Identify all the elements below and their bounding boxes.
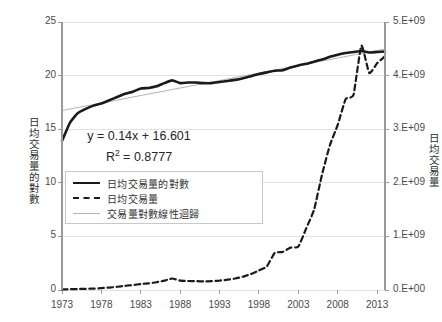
r-squared-value: = 0.8777 xyxy=(120,150,172,164)
legend-item-label: 交易量對數線性迴歸 xyxy=(107,206,200,221)
left-axis-title: 日均交易量的對數 xyxy=(12,96,38,226)
right-tick-label: 1.E+09 xyxy=(393,229,439,240)
chart-figure: 日均交易量的對數 日均交易量 0510152025 0.E+001.E+092.… xyxy=(0,0,442,322)
left-tick-label: 20 xyxy=(16,69,56,80)
r-squared-symbol: R xyxy=(106,150,115,164)
x-tick-label: 2008 xyxy=(316,299,360,310)
left-tick-label: 10 xyxy=(16,176,56,187)
legend-item-label: 日均交易量 xyxy=(107,191,159,206)
x-tick-label: 1993 xyxy=(198,299,242,310)
right-tick-label: 5.E+09 xyxy=(393,15,439,26)
data-series xyxy=(62,46,385,290)
left-tick-label: 15 xyxy=(16,122,56,133)
legend-item[interactable]: 交易量對數線性迴歸 xyxy=(66,206,262,221)
legend-swatch-thin-icon xyxy=(73,208,100,220)
right-tick-label: 2.E+09 xyxy=(393,176,439,187)
x-tick-label: 2013 xyxy=(355,299,399,310)
legend-swatch-dashed-icon xyxy=(73,193,100,205)
x-tick-label: 1978 xyxy=(79,299,123,310)
regression-equation-annotation: y = 0.14x + 16.601 R2 = 0.8777 xyxy=(64,128,214,166)
x-tick-label: 1998 xyxy=(237,299,281,310)
x-tick-label: 1988 xyxy=(158,299,202,310)
x-tick-label: 1983 xyxy=(119,299,163,310)
legend-item[interactable]: 日均交易量 xyxy=(66,191,262,206)
legend-item[interactable]: 日均交易量的對數 xyxy=(66,176,262,191)
left-tick-label: 5 xyxy=(16,229,56,240)
regression-equation-line: y = 0.14x + 16.601 xyxy=(64,128,214,145)
left-tick-label: 0 xyxy=(16,283,56,294)
x-tick-label: 1973 xyxy=(40,299,84,310)
legend-item-label: 日均交易量的對數 xyxy=(107,176,189,191)
right-tick-label: 3.E+09 xyxy=(393,122,439,133)
r-squared-line: R2 = 0.8777 xyxy=(64,145,214,166)
left-tick-label: 25 xyxy=(16,15,56,26)
legend-swatch-solid-icon xyxy=(73,178,100,190)
chart-legend: 日均交易量的對數日均交易量交易量對數線性迴歸 xyxy=(65,171,263,224)
x-tick-label: 2003 xyxy=(276,299,320,310)
right-tick-label: 0.E+00 xyxy=(393,283,439,294)
right-tick-label: 4.E+09 xyxy=(393,69,439,80)
